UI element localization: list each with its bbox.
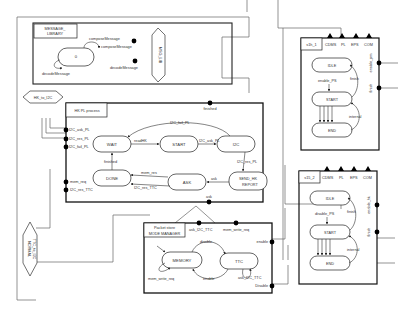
s2-bus-com: COM [363,176,372,180]
port-i2c-res-pl[interactable] [64,137,69,142]
port-enable[interactable] [270,240,275,245]
transition-start-i2c: I2C_ask_PL [199,139,220,143]
transition-ask-i2c-ttc: ask_I2C_TTC [238,276,262,280]
s1-state-idle-label: IDLE [328,64,337,68]
transition-mem-write-req: mem_write_req [148,277,174,281]
port-mem-write-req[interactable] [234,221,239,226]
s1-state-start-label: START [326,98,339,102]
port-i2c-fail-pl-label: I2C_fail_PL [69,145,89,149]
port-ask-i2c-ttc-label: ask_I2C_TTC [189,228,213,232]
transition-decode: decodeMessage [42,72,70,76]
state-i2c-label: I2C [233,142,240,147]
msg-lib-interface-label: MSG_LIB [158,47,162,64]
port-i2c-res-ttc[interactable] [64,188,69,193]
port-disable[interactable] [270,284,275,289]
transition-compose: composeMessage [89,37,120,41]
port-mem-req[interactable] [64,180,69,185]
message-library-title-1: MESSAGE_ [45,27,67,31]
state-machine-diagram: MESSAGE_ LIBRARY 0 composeMessage decode… [0,0,405,309]
s2-port-finish[interactable] [375,230,380,235]
state-done-label: DONE [106,176,118,181]
port-mem-req-label: mem_req [70,180,86,184]
packet-store-block[interactable]: Packet store MODE MANAGER ask_I2C_TTC me… [144,221,274,293]
state-send-hk-label-1: SEND_HK [239,177,257,181]
s2-transition-finish: finish [347,210,356,214]
s2-port-enable-hk-label: enable_hk [367,196,371,214]
packet-store-title-1: Packet store [154,226,175,230]
hk-pl-process-title: HK PL process [74,109,99,113]
port-finished[interactable] [208,101,213,106]
port-enable-label: enable [257,240,268,244]
s2-state-idle-label: IDLE [326,197,335,201]
s2-bus-eps: EPS [350,176,358,180]
hk-to-i2c-interface[interactable]: HK_to_I2C [23,91,63,103]
state-send-hk-label-2: REPORT [242,183,258,187]
port-i2c-fail-pl[interactable] [64,145,69,150]
port-ask-i2c-ttc[interactable] [197,221,202,226]
s2-transition-internal: internal [347,248,360,252]
s1-bus-eps: EPS [351,43,359,47]
message-library-title-2: LIBRARY [47,32,64,36]
port-i2c-ask-pl-label: I2C_ask_PL [69,128,90,132]
transition-i2c-res: I2C_res_PL [237,160,257,164]
hk-to-i2c-label: HK_to_I2C [34,96,53,100]
message-library-block[interactable]: MESSAGE_ LIBRARY 0 composeMessage decode… [33,23,232,84]
s1-bus-pl: PL [341,43,346,47]
transition-disable: disable [200,240,212,244]
s2-title: s15_2 [304,176,314,180]
s1-bus-com: COM [364,43,373,47]
ttc-to-i2c-interface[interactable]: TTC_to_I2C NORMAL [23,222,37,276]
port-compose[interactable] [132,39,137,44]
state-wait-label: WAIT [107,142,118,147]
transition-mem-res: mem_res [141,171,157,175]
s1-bus-cdms: CDMS [325,43,337,47]
s2-transition-disable-ps: disable_PS [315,212,335,216]
s2-port-finish-label: finish [367,228,371,237]
port-decode-label: decodeMessage [110,66,138,70]
port-i2c-ask-pl[interactable] [64,128,69,133]
s1-port-finish-label: finish [369,84,373,93]
port-mem-write-req-label: mem_write_req [223,228,249,232]
s1-transition-enable-ps: enable_PS [318,79,337,83]
s2-bus-cdms: CDMS [322,176,334,180]
port-i2c-res-ttc-label: I2C_res_TTC [70,188,93,192]
transition-i2c-fail: I2C_fail_PL [170,121,190,125]
s1-port-finish[interactable] [377,86,382,91]
ttc-to-i2c-label-2: NORMAL [27,241,31,257]
state-ask-label: ASK [183,180,192,185]
s2-state-end-label: END [326,262,334,266]
port-finished-label: finished [203,107,216,111]
state-ttc-label: TTC [235,259,243,264]
port-decode[interactable] [133,59,138,64]
transition-i2c-res-ttc: I2C_res_TTC [134,186,157,190]
s1-state-end-label: END [328,129,336,133]
s2-bus-pl: PL [339,176,344,180]
hk-pl-process-block[interactable]: HK PL process I2C_ask_PL I2C_res_PL I2C_… [64,101,267,205]
transition-readhk: readHK [134,139,147,143]
port-compose-label: composeMessage [101,45,132,49]
s1-port-enable-pm-label: enable_pm [369,54,373,73]
s1-port-enable-pm[interactable] [377,61,382,66]
port-disable-label: Disable [255,284,268,288]
s1-transition-internal: internal [349,115,362,119]
s1-title: s1h_1 [306,43,316,47]
port-ask[interactable] [207,200,212,205]
port-i2c-res-pl-label: I2C_res_PL [69,137,89,141]
port-ask-label: ask [206,195,212,199]
ttc-to-i2c-label-1: TTC_to_I2C [32,239,36,260]
packet-store-title-2: MODE MANAGER [149,232,181,236]
s2-state-start-label: START [324,231,337,235]
s2-port-enable-hk[interactable] [375,203,380,208]
state-start-label: START [172,142,186,147]
transition-finished: finished [104,160,117,164]
s1-transition-finish: finish [350,77,359,81]
state-send-hk-report[interactable] [229,172,267,190]
s1-block[interactable]: s1h_1 CDMS PL EPS COM IDLE START END ena… [301,33,381,150]
state-memory-label: MEMORY [173,258,192,263]
transition-enable: enable [203,277,214,281]
transition-ask: ask [211,177,217,181]
s2-block[interactable]: s15_2 CDMS PL EPS COM IDLE START END dis… [299,166,379,284]
